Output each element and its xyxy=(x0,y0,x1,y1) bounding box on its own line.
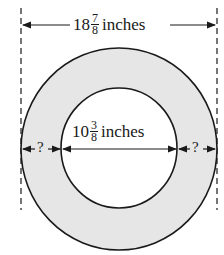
inner-unit: inches xyxy=(101,122,144,142)
unknown-left-label: ? xyxy=(37,139,44,156)
outer-denominator: 8 xyxy=(92,25,98,36)
unknown-right-label: ? xyxy=(192,139,199,156)
outer-fraction: 7 8 xyxy=(91,13,99,36)
outer-diameter-label: 18 7 8 inches xyxy=(70,13,148,36)
outer-whole: 18 xyxy=(73,15,90,35)
inner-whole: 10 xyxy=(72,122,89,142)
outer-unit: inches xyxy=(102,15,145,35)
inner-diameter-label: 10 3 8 inches xyxy=(72,120,144,143)
inner-fraction: 3 8 xyxy=(90,120,98,143)
inner-circle xyxy=(61,88,177,208)
inner-denominator: 8 xyxy=(91,132,97,143)
